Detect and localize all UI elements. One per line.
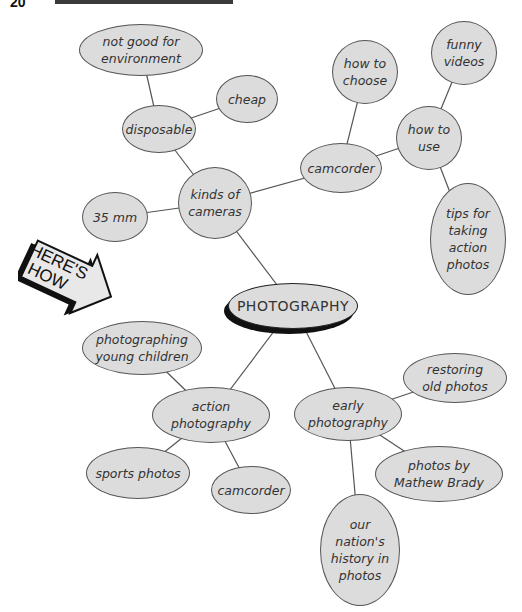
node-brady: photos by Mathew Brady [375,446,503,502]
node-disposable: disposable [122,105,196,153]
node-root: PHOTOGRAPHY [228,283,358,329]
node-early: early photography [294,387,402,441]
node-notgood: not good for environment [79,24,203,76]
node-sports: sports photos [86,447,190,499]
node-camcorder: camcorder [300,143,382,193]
node-camcorder2: camcorder [211,466,291,514]
node-mm35: 35 mm [82,192,148,242]
node-youngchildren: photographing young children [82,321,202,375]
node-nation: our nation's history in photos [320,494,400,606]
node-restoring: restoring old photos [403,353,507,403]
node-howchoose: how to choose [332,40,398,104]
node-howuse: how to use [396,106,462,170]
cluster-map-canvas: 20 HERE'S HOW PHOTOGRAPHYkinds of camera… [0,0,522,612]
heres-how-arrow-icon: HERE'S HOW [18,235,118,325]
node-tips: tips for taking action photos [430,183,506,295]
node-cheap: cheap [216,75,278,123]
node-kinds: kinds of cameras [178,167,252,239]
node-action: action photography [152,387,270,443]
node-funny: funny videos [431,21,497,85]
